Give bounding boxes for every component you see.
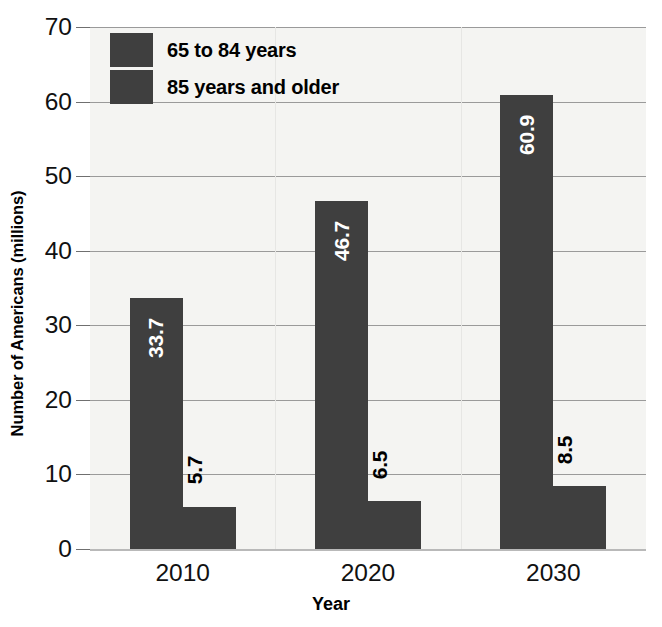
y-tick-mark <box>76 176 90 177</box>
category-separator <box>461 27 462 549</box>
y-tick-mark <box>76 27 90 28</box>
gridline <box>90 251 646 252</box>
bar <box>500 95 553 549</box>
y-tick-mark <box>76 400 90 401</box>
y-tick-label: 0 <box>8 535 72 563</box>
legend-swatch-icon <box>110 70 153 104</box>
y-tick-label: 70 <box>8 13 72 41</box>
y-tick-mark <box>76 102 90 103</box>
bar <box>183 507 236 550</box>
x-tick-label: 2010 <box>155 559 210 587</box>
bar-chart: Number of Americans (millions) 010203040… <box>0 0 662 627</box>
y-tick-label: 30 <box>8 311 72 339</box>
x-tick-label: 2020 <box>341 559 396 587</box>
y-tick-label: 60 <box>8 88 72 116</box>
legend-label: 65 to 84 years <box>167 39 297 62</box>
legend-item-65-to-84: 65 to 84 years <box>110 33 339 67</box>
bar-value-label: 60.9 <box>515 115 539 155</box>
bar-value-label: 8.5 <box>553 435 577 464</box>
y-tick-label: 10 <box>8 460 72 488</box>
bar <box>553 486 606 549</box>
y-tick-mark <box>76 549 90 550</box>
y-tick-mark <box>76 474 90 475</box>
legend-label: 85 years and older <box>167 76 339 99</box>
y-tick-label: 50 <box>8 162 72 190</box>
bar-value-label: 33.7 <box>144 318 168 358</box>
y-tick-mark <box>76 325 90 326</box>
y-tick-label: 20 <box>8 386 72 414</box>
y-tick-mark <box>76 251 90 252</box>
x-tick-label: 2030 <box>526 559 581 587</box>
legend-item-85-and-older: 85 years and older <box>110 70 339 104</box>
bar-value-label: 46.7 <box>330 221 354 261</box>
gridline <box>90 27 646 28</box>
legend: 65 to 84 years 85 years and older <box>110 33 339 107</box>
bar <box>368 501 421 549</box>
x-axis-title: Year <box>0 594 662 615</box>
y-tick-label: 40 <box>8 237 72 265</box>
bar-value-label: 6.5 <box>368 450 392 479</box>
gridline <box>90 549 646 551</box>
bar-value-label: 5.7 <box>183 456 207 485</box>
gridline <box>90 176 646 177</box>
legend-swatch-icon <box>110 33 153 67</box>
